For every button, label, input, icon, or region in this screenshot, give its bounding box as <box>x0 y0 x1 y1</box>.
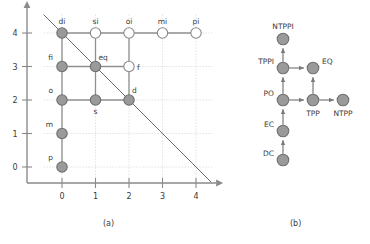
graph-node-TPP[interactable] <box>307 94 319 106</box>
lattice-node-d[interactable] <box>124 95 134 105</box>
graph-node-PO[interactable] <box>277 94 289 106</box>
caption-b: (b) <box>290 219 301 228</box>
y-axis-tick-label: 3 <box>12 63 17 72</box>
graph-node-label-EC: EC <box>264 120 274 129</box>
caption-a: (a) <box>103 219 114 228</box>
y-axis-arrowhead <box>24 1 31 8</box>
x-axis-tick-label: 1 <box>93 192 98 201</box>
x-axis-tick-label: 3 <box>160 192 165 201</box>
lattice-node-label-fi: fi <box>48 53 53 62</box>
graph-node-label-EQ: EQ <box>322 57 333 66</box>
lattice-node-mi[interactable] <box>157 28 167 38</box>
graph-node-label-TPP: TPP <box>305 109 320 118</box>
figure-panels: 0123401234pmosdfieqfdisioimipi NTPPITPPI… <box>0 0 370 244</box>
lattice-node-m[interactable] <box>57 128 67 138</box>
graph-node-label-DC: DC <box>263 149 274 158</box>
lattice-node-label-eq: eq <box>99 53 109 62</box>
graph-node-EC[interactable] <box>277 125 289 137</box>
lattice-node-fi[interactable] <box>57 61 67 71</box>
x-axis-arrowhead <box>216 180 223 187</box>
lattice-node-label-p: p <box>48 153 53 162</box>
lattice-node-di[interactable] <box>57 28 67 38</box>
graph-node-label-TPPI: TPPI <box>257 57 274 66</box>
lattice-node-label-m: m <box>46 120 53 129</box>
y-axis-tick-label: 2 <box>12 96 17 105</box>
graph-node-label-NTPPI: NTPPI <box>272 22 293 31</box>
lattice-node-oi[interactable] <box>124 28 134 38</box>
lattice-node-label-oi: oi <box>126 17 133 26</box>
lattice-node-label-di: di <box>59 17 66 26</box>
graph-node-EQ[interactable] <box>307 62 319 74</box>
x-axis-tick-label: 4 <box>193 192 198 201</box>
graph-node-NTPP[interactable] <box>337 94 349 106</box>
graph-node-TPPI[interactable] <box>277 62 289 74</box>
graph-node-label-PO: PO <box>264 89 275 98</box>
lattice-node-pi[interactable] <box>191 28 201 38</box>
x-axis-tick-label: 2 <box>126 192 131 201</box>
lattice-node-p[interactable] <box>57 162 67 172</box>
lattice-node-label-si: si <box>93 17 99 26</box>
lattice-node-eq[interactable] <box>90 61 100 71</box>
lattice-node-si[interactable] <box>90 28 100 38</box>
graph-node-label-NTPP: NTPP <box>333 109 353 118</box>
lattice-node-label-d: d <box>132 86 137 95</box>
lattice-node-label-f: f <box>137 63 140 72</box>
lattice-node-o[interactable] <box>57 95 67 105</box>
y-axis-tick-label: 4 <box>12 29 17 38</box>
x-axis-tick-label: 0 <box>59 192 64 201</box>
lattice-node-f[interactable] <box>124 61 134 71</box>
graph-node-DC[interactable] <box>277 154 289 166</box>
y-axis-tick-label: 0 <box>12 163 17 172</box>
y-axis-tick-label: 1 <box>12 130 17 139</box>
panel-b-rcc8-graph: NTPPITPPIEQPOTPPNTPPECDC <box>257 22 353 166</box>
graph-node-NTPPI[interactable] <box>277 33 289 45</box>
lattice-node-s[interactable] <box>90 95 100 105</box>
lattice-node-label-s: s <box>94 107 98 116</box>
lattice-node-label-o: o <box>48 86 53 95</box>
panel-a-lattice-plot: 0123401234pmosdfieqfdisioimipi <box>12 1 223 201</box>
lattice-node-label-mi: mi <box>158 17 167 26</box>
lattice-node-label-pi: pi <box>193 17 200 26</box>
